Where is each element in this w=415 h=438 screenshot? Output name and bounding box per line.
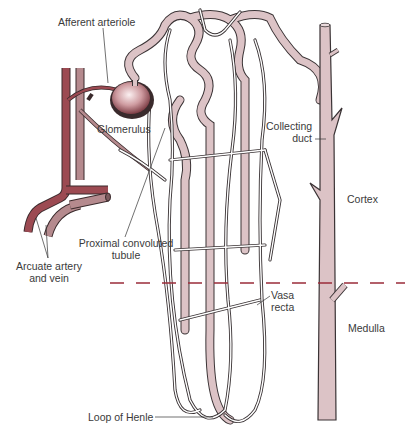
convoluted-tubules	[120, 10, 323, 421]
nephron-diagram: Afferent arteriole Glomerulus Proximal c…	[0, 0, 415, 438]
collecting-duct	[310, 23, 345, 420]
label-vasa-recta: Vasa recta	[271, 289, 294, 313]
label-cortex: Cortex	[347, 193, 378, 205]
label-loop-of-henle: Loop of Henle	[88, 411, 153, 423]
label-arcuate-line1: Arcuate artery	[12, 260, 86, 272]
label-collecting-duct: Collecting duct	[266, 120, 312, 144]
nephron-illustration	[0, 0, 415, 438]
label-vasa-line2: recta	[271, 301, 294, 313]
label-vasa-line1: Vasa	[271, 289, 294, 301]
label-medulla: Medulla	[348, 322, 385, 334]
label-collecting-line1: Collecting	[266, 120, 312, 132]
label-glomerulus: Glomerulus	[97, 123, 151, 135]
label-proximal-convoluted-tubule: Proximal convoluted tubule	[70, 237, 182, 261]
label-collecting-line2: duct	[266, 132, 312, 144]
glomerulus-capsule	[110, 80, 154, 119]
label-proximal-line1: Proximal convoluted	[70, 237, 182, 249]
label-arcuate-line2: and vein	[12, 272, 86, 284]
label-arcuate-artery-vein: Arcuate artery and vein	[12, 260, 86, 284]
label-afferent-arteriole: Afferent arteriole	[58, 16, 135, 28]
label-proximal-line2: tubule	[70, 249, 182, 261]
